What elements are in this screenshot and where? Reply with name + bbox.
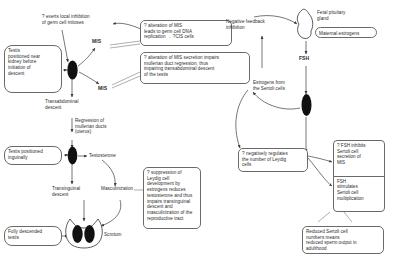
node-testis-inguinal: Testis positioned inguinally bbox=[4, 146, 62, 165]
node-testis-near-kidney: Testis positioned near kidney before ini… bbox=[4, 45, 62, 93]
label-fsh: FSH bbox=[299, 56, 309, 62]
annotation-leydig-suppression: ? suppression of Leydig cell development… bbox=[143, 167, 201, 229]
label-mis-upper: MIS bbox=[92, 39, 101, 45]
label-negative-feedback-inhibition: Negative feedback inhibition bbox=[226, 19, 288, 30]
label-germ-cell-inhibition: ? exerts local inhibition of germ cell m… bbox=[42, 14, 134, 25]
label-fetal-pituitary-gland: Fetal pituitary gland bbox=[317, 10, 369, 21]
annotation-mis-secretion: ? alteration of MIS secretion impairs mu… bbox=[140, 52, 250, 84]
annotation-fsh-stimulates-multiplication: FSH stimulates Sertoli cell multiplicati… bbox=[334, 177, 384, 212]
label-estrogens-from-sertoli-cells: Estrogens from the Sertoli cells bbox=[253, 80, 313, 91]
annotation-fsh-sertoli-split-box: ? FSH inhibits Sertoli cell secretion of… bbox=[333, 140, 385, 212]
label-mis-lower: MIS bbox=[98, 86, 107, 92]
label-transinguinal-descent: Transinguinal descent bbox=[52, 186, 96, 197]
node-fully-descended-testis: Fully descended testis bbox=[4, 226, 62, 246]
node-maternal-estrogens: Maternal estrogens bbox=[315, 27, 377, 38]
label-masculinization: Masculinization bbox=[101, 186, 147, 192]
label-scrotum: Scrotum bbox=[104, 232, 121, 238]
annotation-reduced-sertoli-sperm-output: Reduced Sertoli cell numbers means reduc… bbox=[302, 226, 384, 254]
annotation-fsh-inhibits-mis: ? FSH inhibits Sertoli cell secretion of… bbox=[334, 141, 384, 177]
label-testosterone: Testosterone bbox=[89, 153, 116, 159]
diagram-canvas: ? exerts local inhibition of germ cell m… bbox=[0, 0, 395, 271]
label-regression-mullerian-ducts: Regression of mullerian ducts (uterus) bbox=[75, 118, 135, 135]
annotation-mis-dna-replication: ? alteration of MIS leads to germ cell D… bbox=[140, 20, 232, 46]
annotation-negatively-regulates-leydig: ? negatively regulates the number of Ley… bbox=[238, 148, 308, 172]
label-transabdominal-descent: Transabdominal descent bbox=[45, 99, 105, 110]
